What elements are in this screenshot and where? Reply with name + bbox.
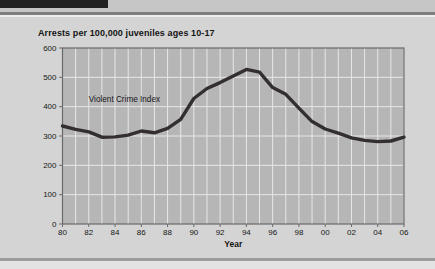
header-black-bar — [0, 0, 108, 8]
page-margin-bottom — [0, 262, 435, 269]
figure-panel — [0, 17, 435, 258]
chart-title: Arrests per 100,000 juveniles ages 10-17 — [38, 28, 215, 38]
textbook-page: Arrests per 100,000 juveniles ages 10-17… — [0, 0, 435, 269]
